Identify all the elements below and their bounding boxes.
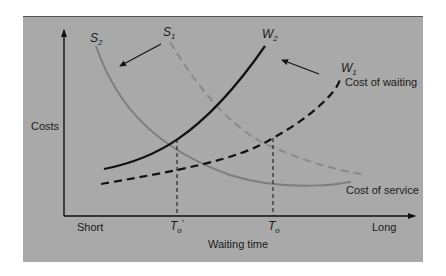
x-tick-short: Short (77, 221, 103, 233)
cost-of-waiting-label: Cost of waiting (345, 76, 417, 88)
t-prime-label: To′ (170, 218, 184, 235)
x-tick-long: Long (372, 221, 396, 233)
waiting-cost-diagram: S2 S1 W2 W1 Cost of waiting Cost of serv… (0, 0, 446, 276)
x-axis-label: Waiting time (208, 238, 268, 250)
y-axis-label: Costs (31, 120, 60, 132)
cost-of-service-label: Cost of service (346, 184, 419, 196)
